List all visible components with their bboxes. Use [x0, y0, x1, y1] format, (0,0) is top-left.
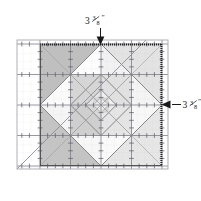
callout-top-fraction-denominator: 8: [96, 19, 99, 26]
ruler-grid: [17, 40, 168, 169]
callout-top-whole-number: 3: [85, 16, 90, 26]
figure-canvas: 3 3 8 ” 3 3 8 ”: [0, 0, 201, 201]
callout-right-unit: ”: [198, 97, 201, 105]
callout-right-fraction-denominator: 8: [194, 103, 197, 110]
quilting-ruler[interactable]: [17, 40, 168, 169]
callout-top-unit: ”: [102, 13, 105, 21]
callout-right-whole-number: 3: [183, 100, 188, 110]
quilt-ruler-diagram: 3 3 8 ” 3 3 8 ”: [0, 0, 201, 201]
